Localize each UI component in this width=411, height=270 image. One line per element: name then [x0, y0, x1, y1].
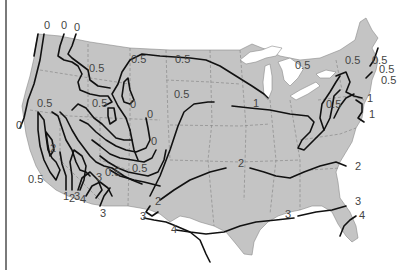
isoline-label: 0 [61, 19, 67, 31]
isoline-label: 0 [147, 108, 153, 120]
isoline-label: 0.5 [295, 59, 310, 71]
isoline-label: 3 [140, 210, 146, 222]
isoline-label: 2 [50, 142, 56, 154]
isoline-label: 0.5 [28, 173, 43, 185]
isoline-label: 0.5 [92, 97, 107, 109]
isoline-label: 4 [171, 223, 177, 235]
isoline-label: 0.5 [131, 53, 146, 65]
isoline-label: 4 [359, 209, 365, 221]
isoline-label: 0 [16, 119, 22, 131]
isoline-label: 3 [285, 208, 291, 220]
isoline-label: 0.5 [174, 88, 189, 100]
isoline-label: 0 [151, 135, 157, 147]
isoline-label: 3 [355, 195, 361, 207]
isoline-label: 0 [130, 98, 136, 110]
isoline-label: 2 [155, 195, 161, 207]
isoline-label: 0.5 [326, 98, 341, 110]
isoline-label: 0 [74, 21, 80, 33]
isoline-label: 3 [100, 207, 106, 219]
isoline-label: 1 [367, 92, 373, 104]
isoline-label: 0 [44, 19, 50, 31]
isoline-label: 0.5 [37, 97, 52, 109]
us-isoline-map: 0000.50.50.5020.5123430.50.500.5000.530.… [0, 0, 411, 270]
isoline-label: 3 [96, 171, 102, 183]
isoline-label: 0.5 [105, 166, 120, 178]
isoline-label: 0.5 [175, 53, 190, 65]
isoline-label: 2 [355, 160, 361, 172]
isoline-label: 1 [253, 97, 259, 109]
isoline-label: 0.5 [345, 54, 360, 66]
isoline-label: 0.5 [89, 62, 104, 74]
isoline-label: 0.5 [132, 162, 147, 174]
isoline-label: 0.5 [381, 74, 396, 86]
isoline-label: 4 [80, 193, 86, 205]
isoline-label: 2 [238, 157, 244, 169]
isoline-label: 1 [369, 108, 375, 120]
